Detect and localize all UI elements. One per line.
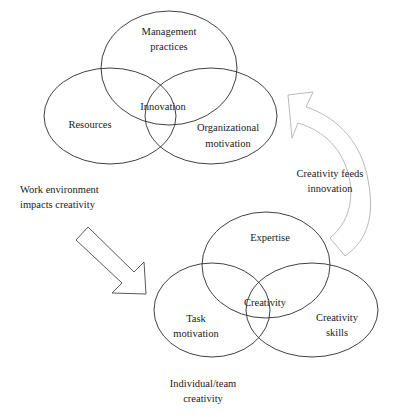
- label-organizational-motivation-line1: Organizational: [197, 122, 259, 133]
- label-individual-team-line1: Individual/team: [170, 378, 236, 389]
- venn-circle-creativity-skills: [246, 263, 378, 357]
- label-organizational-motivation-line2: motivation: [205, 138, 251, 149]
- venn-circle-organizational-motivation: [145, 68, 277, 164]
- label-creativity-skills-line2: skills: [326, 327, 348, 338]
- work-environment-arrow-path: [76, 227, 146, 294]
- label-task-motivation-line2: motivation: [173, 328, 219, 339]
- label-task-motivation-line1: Task: [186, 313, 206, 324]
- componential-model-diagram: Management practices Resources Organizat…: [0, 0, 407, 417]
- venn-circle-resources: [44, 68, 176, 164]
- label-management-practices-line2: practices: [150, 41, 187, 52]
- work-environment-arrow: [76, 227, 146, 294]
- label-management-practices-line1: Management: [142, 26, 197, 37]
- label-creativity-feeds-line1: Creativity feeds: [297, 168, 364, 179]
- individual-creativity-venn: Expertise Task motivation Creativity ski…: [154, 212, 378, 357]
- label-innovation-center: Innovation: [140, 101, 186, 112]
- diagram-canvas: Management practices Resources Organizat…: [0, 0, 407, 417]
- label-creativity-skills-line1: Creativity: [316, 312, 359, 323]
- label-creativity-center: Creativity: [244, 297, 287, 308]
- label-individual-team-line2: creativity: [183, 393, 223, 404]
- label-resources: Resources: [68, 119, 111, 130]
- label-work-environment-line1: Work environment: [20, 184, 99, 195]
- venn-circle-task-motivation: [154, 263, 270, 357]
- label-creativity-feeds-line2: innovation: [308, 183, 354, 194]
- organizational-innovation-venn: Management practices Resources Organizat…: [44, 11, 277, 164]
- label-work-environment-line2: impacts creativity: [20, 199, 96, 210]
- label-expertise: Expertise: [250, 232, 290, 243]
